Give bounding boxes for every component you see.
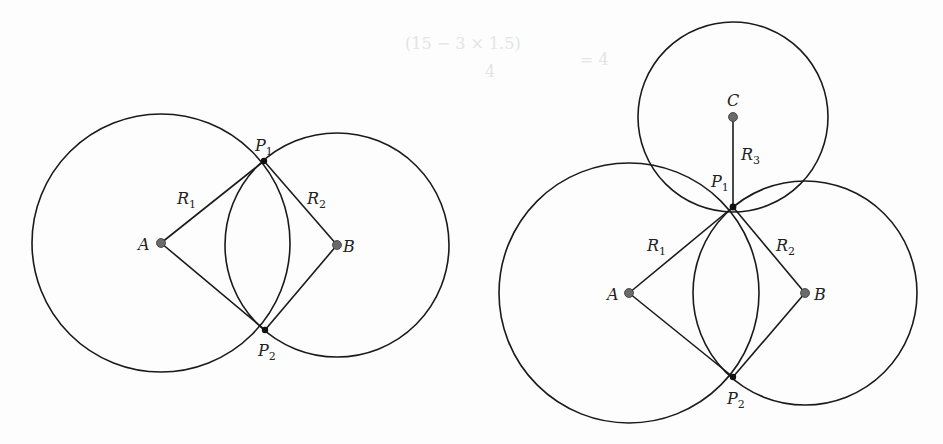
label-p2: P2 bbox=[726, 389, 745, 411]
right-panel-three-circle: C A B P1 P2 R3 R1 R2 bbox=[499, 22, 917, 423]
center-point-c bbox=[729, 113, 738, 122]
center-point-b bbox=[801, 289, 810, 298]
label-a: A bbox=[136, 235, 150, 254]
label-p1: P1 bbox=[710, 172, 729, 194]
label-r3: R3 bbox=[740, 145, 760, 167]
segment-b-p2 bbox=[265, 245, 337, 330]
intersection-point-p2 bbox=[730, 374, 736, 380]
segment-b-p1 bbox=[264, 161, 337, 245]
label-r1: R1 bbox=[646, 236, 666, 258]
trilateration-diagram: A B P1 P2 R1 R2 C A B P1 P2 R3 R1 R2 bbox=[0, 0, 943, 444]
label-b: B bbox=[813, 285, 826, 304]
left-panel-two-circle: A B P1 P2 R1 R2 bbox=[32, 114, 449, 372]
label-p2: P2 bbox=[257, 341, 276, 363]
center-point-b bbox=[333, 241, 342, 250]
intersection-point-p1 bbox=[261, 158, 267, 164]
center-point-a bbox=[157, 239, 166, 248]
label-a: A bbox=[605, 285, 619, 304]
center-point-a bbox=[625, 289, 634, 298]
label-r2: R2 bbox=[775, 236, 795, 258]
intersection-point-p1 bbox=[730, 204, 737, 211]
label-p1: P1 bbox=[254, 136, 273, 158]
label-b: B bbox=[342, 237, 355, 256]
segment-a-p2 bbox=[161, 243, 265, 330]
label-c: C bbox=[727, 91, 739, 110]
intersection-point-p2 bbox=[262, 327, 268, 333]
segment-a-p2 bbox=[629, 293, 733, 377]
label-r2: R2 bbox=[306, 189, 326, 211]
label-r1: R1 bbox=[176, 189, 196, 211]
segment-a-p1 bbox=[629, 207, 733, 293]
segment-b-p2 bbox=[733, 293, 805, 377]
